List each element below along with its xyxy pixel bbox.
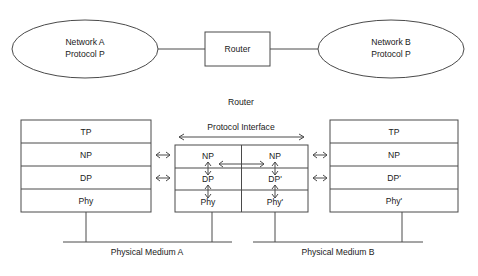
left-host-stack: TP NP DP Phy xyxy=(21,120,151,212)
physical-medium-b-label: Physical Medium B xyxy=(301,247,374,257)
router-left-layer-1: DP xyxy=(202,174,214,184)
network-a-line2: Protocol P xyxy=(65,49,105,59)
router-right-layer-1: DP' xyxy=(268,174,282,184)
physical-medium-a-label: Physical Medium A xyxy=(111,247,184,257)
right-host-stack: TP NP DP' Phy' xyxy=(330,120,458,212)
peer-arrow-right-dp xyxy=(313,175,327,181)
bottom-diagram: Router Protocol Interface TP NP DP Phy xyxy=(21,97,458,257)
network-b-line1: Network B xyxy=(371,37,411,47)
right-stack-layer-0: TP xyxy=(389,127,400,137)
router-right-layer-0: NP xyxy=(269,151,281,161)
left-stack-layer-1: NP xyxy=(80,150,92,160)
physical-medium-a: Physical Medium A xyxy=(63,212,232,257)
router-left-layer-2: Phy xyxy=(201,197,217,207)
peer-arrow-right-np xyxy=(313,152,327,158)
router-box-label: Router xyxy=(225,44,251,54)
network-layering-diagram: Network A Protocol P Router Network B Pr… xyxy=(0,0,478,276)
protocol-interface-arrow xyxy=(179,134,304,140)
network-b-line2: Protocol P xyxy=(371,49,411,59)
figure-canvas: Network A Protocol P Router Network B Pr… xyxy=(0,0,478,276)
router-left-layer-0: NP xyxy=(202,151,214,161)
peer-arrow-left-dp xyxy=(156,175,170,181)
right-stack-layer-3: Phy' xyxy=(386,196,403,206)
left-stack-layer-0: TP xyxy=(81,127,92,137)
right-stack-layer-2: DP' xyxy=(387,173,401,183)
peer-arrow-left-np xyxy=(156,152,170,158)
network-a-line1: Network A xyxy=(65,37,104,47)
protocol-interface-label: Protocol Interface xyxy=(207,122,275,132)
top-diagram: Network A Protocol P Router Network B Pr… xyxy=(12,20,464,78)
right-stack-layer-1: NP xyxy=(388,150,400,160)
left-stack-layer-3: Phy xyxy=(79,196,95,206)
router-caption: Router xyxy=(228,97,254,107)
router-right-layer-2: Phy' xyxy=(267,197,284,207)
physical-medium-b: Physical Medium B xyxy=(253,212,423,257)
left-stack-layer-2: DP xyxy=(80,173,92,183)
router-stack: NP DP Phy NP DP' Phy' xyxy=(175,145,308,212)
